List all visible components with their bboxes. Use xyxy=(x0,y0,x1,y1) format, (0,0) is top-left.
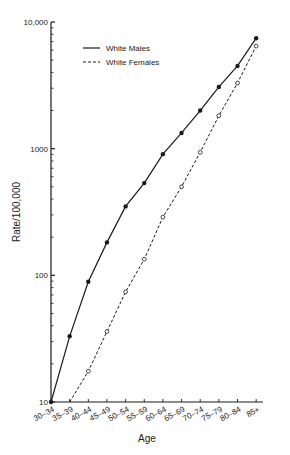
data-point-marker xyxy=(198,150,202,154)
data-point-marker xyxy=(67,334,71,338)
data-point-marker xyxy=(217,114,221,118)
y-tick-label: 100 xyxy=(35,271,49,280)
x-axis-title: Age xyxy=(138,433,156,444)
y-axis-title: Rate/100,000 xyxy=(11,182,22,242)
data-point-marker xyxy=(105,240,109,244)
data-point-marker xyxy=(180,185,184,189)
data-point-marker xyxy=(235,64,239,68)
data-point-marker xyxy=(86,369,90,373)
series-line xyxy=(51,38,256,402)
data-point-marker xyxy=(105,330,109,334)
data-point-marker xyxy=(179,131,183,135)
line-chart: 10100100010,00030–3435–3940–4445–4950–54… xyxy=(0,0,290,455)
data-point-marker xyxy=(142,181,146,185)
series-line xyxy=(70,46,257,402)
data-point-marker xyxy=(142,257,146,261)
data-point-marker xyxy=(161,215,165,219)
data-point-marker xyxy=(124,290,128,294)
data-point-marker xyxy=(49,400,53,404)
series-layer xyxy=(49,36,259,404)
data-point-marker xyxy=(254,36,258,40)
data-point-marker xyxy=(161,152,165,156)
legend: White Males White Females xyxy=(83,44,159,67)
series-white-males xyxy=(49,36,259,404)
series-white-females xyxy=(70,44,258,402)
x-tick-label: 85+ xyxy=(245,405,261,419)
y-tick-label: 10,000 xyxy=(24,18,49,27)
data-point-marker xyxy=(254,44,258,48)
data-point-marker xyxy=(86,280,90,284)
axes: 10100100010,00030–3435–3940–4445–4950–54… xyxy=(24,18,263,423)
data-point-marker xyxy=(236,81,240,85)
data-point-marker xyxy=(198,108,202,112)
data-point-marker xyxy=(217,85,221,89)
y-tick-label: 1000 xyxy=(30,145,48,154)
legend-label-males: White Males xyxy=(106,44,150,53)
data-point-marker xyxy=(123,204,127,208)
y-tick-label: 10 xyxy=(39,398,48,407)
legend-label-females: White Females xyxy=(106,58,159,67)
x-tick-label: 80–84 xyxy=(219,405,243,424)
